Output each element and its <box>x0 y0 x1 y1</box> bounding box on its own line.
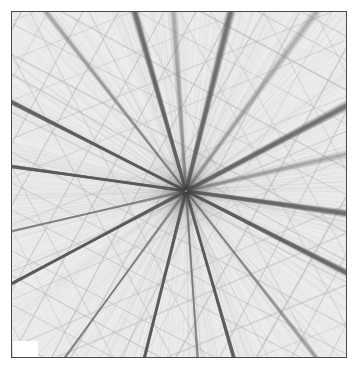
plot-frame <box>11 11 347 358</box>
line-arrangement-plot <box>12 12 346 357</box>
white-occlusion-patch <box>13 341 38 357</box>
figure-container <box>0 0 357 370</box>
